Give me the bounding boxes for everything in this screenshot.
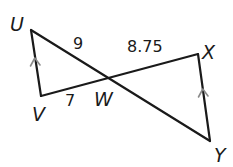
geometry-diagram: U V W X Y 9 8.75 7 [0, 0, 233, 167]
vertex-label-v: V [32, 103, 47, 125]
vertex-label-y: Y [214, 144, 227, 166]
vertex-label-x: X [201, 41, 216, 63]
measurement-vw: 7 [65, 91, 75, 110]
segment-uy [31, 30, 210, 141]
segment-vx [41, 54, 198, 96]
segment-xy [198, 54, 210, 141]
measurement-uw: 9 [73, 34, 83, 53]
vertex-label-w: W [94, 88, 114, 110]
measurement-wx: 8.75 [127, 37, 163, 56]
vertex-label-u: U [10, 13, 24, 35]
